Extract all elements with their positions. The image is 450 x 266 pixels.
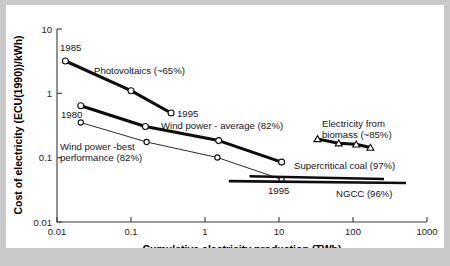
- x-tick-label-2: 1: [202, 226, 207, 237]
- label-year-1995-pv: 1995: [177, 108, 198, 119]
- data-point: [168, 110, 174, 116]
- x-tick-label-0: 0.01: [48, 226, 67, 237]
- data-point: [142, 124, 148, 130]
- data-point: [128, 88, 134, 94]
- label-year-1980: 1980: [61, 109, 82, 120]
- y-tick-label-2: 0.1: [39, 152, 52, 163]
- label-ngcc: NGCC (96%): [336, 188, 393, 199]
- x-tick-label-1: 0.1: [124, 226, 137, 237]
- scatter-line-chart: 0.01 0.1 1 10 100 1000 10 1 0.1 0.01: [6, 5, 444, 248]
- label-biomass-line2: biomass (~85%): [322, 129, 392, 140]
- y-axis-title: Cost of electricity (ECU(1990))/kWh): [12, 35, 24, 214]
- data-point: [62, 58, 68, 64]
- chart-figure-panel: 0.01 0.1 1 10 100 1000 10 1 0.1 0.01: [6, 5, 444, 248]
- data-point: [215, 155, 220, 160]
- y-tick-label-0: 10: [41, 24, 52, 35]
- series-ngcc: [229, 181, 406, 183]
- data-point: [144, 139, 149, 144]
- figure-root: 0.01 0.1 1 10 100 1000 10 1 0.1 0.01: [0, 0, 450, 266]
- x-axis-ticks: [57, 217, 427, 222]
- x-tick-label-4: 100: [345, 226, 361, 237]
- y-tick-label-1: 1: [47, 88, 52, 99]
- data-point: [78, 103, 84, 109]
- x-axis-tick-labels: 0.01 0.1 1 10 100 1000: [48, 226, 438, 237]
- y-axis-tick-labels: 10 1 0.1 0.01: [34, 24, 53, 228]
- label-wind-average: Wind power - average (82%): [161, 120, 283, 131]
- data-point: [279, 159, 285, 165]
- y-tick-label-3: 0.01: [34, 217, 53, 228]
- label-biomass-line1: Electricity from: [322, 118, 385, 129]
- series-supercritical-coal: [250, 176, 385, 179]
- x-tick-label-5: 1000: [416, 226, 437, 237]
- label-photovoltaics: Photovoltaics (~65%): [94, 65, 185, 76]
- label-supercritical-coal: Supercritical coal (97%): [294, 160, 395, 171]
- y-axis-ticks: [57, 29, 62, 222]
- x-tick-label-3: 10: [274, 226, 285, 237]
- label-wind-best-line2: performance (82%): [60, 152, 142, 163]
- label-year-1985: 1985: [60, 42, 81, 53]
- label-wind-best-line1: Wind power -best: [60, 141, 135, 152]
- label-year-1995-wind: 1995: [268, 185, 289, 196]
- x-axis-title: Cumulative electricity production (TWh): [143, 243, 342, 248]
- data-point: [216, 138, 222, 144]
- data-point: [78, 120, 83, 125]
